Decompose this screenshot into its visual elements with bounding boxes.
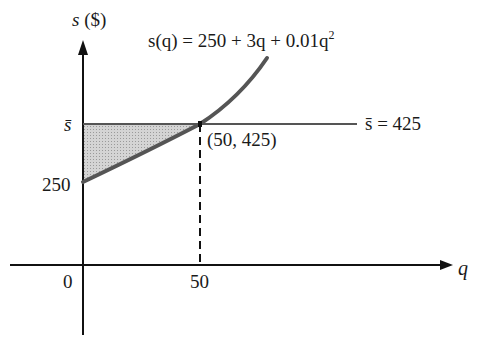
tick-50-label: 50: [190, 271, 209, 292]
y-axis-label: s ($): [72, 9, 106, 31]
intersection-point: [198, 121, 202, 127]
sbar-line-label: s̄ = 425: [365, 113, 421, 134]
tick-250-label: 250: [42, 174, 71, 195]
tick-0-label: 0: [63, 271, 73, 292]
y-axis-arrow-icon: [78, 40, 88, 55]
x-axis-arrow-icon: [440, 260, 453, 270]
supply-curve-chart: s ($) s(q) = 250 + 3q + 0.01q2 s̄ 250 0 …: [0, 0, 481, 344]
equation-label: s(q) = 250 + 3q + 0.01q2: [148, 28, 334, 52]
x-axis-label: q: [458, 257, 468, 280]
sbar-tick-label: s̄: [64, 114, 72, 135]
point-label: (50, 425): [207, 129, 277, 151]
